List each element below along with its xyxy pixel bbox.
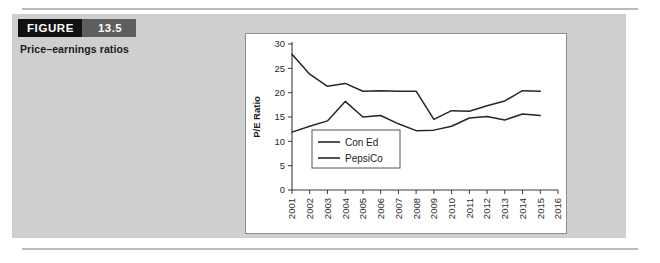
- bottom-divider-rule: [22, 248, 638, 250]
- x-tick-label: 2015: [535, 198, 546, 219]
- y-tick-label: 10: [274, 136, 285, 147]
- x-tick-label: 2001: [286, 198, 297, 219]
- figure-page: FIGURE 13.5 Price–earnings ratios 051015…: [0, 0, 660, 263]
- y-tick-label: 0: [280, 184, 285, 195]
- y-tick-label: 25: [274, 63, 285, 74]
- x-tick-label: 2004: [340, 198, 351, 219]
- y-tick-label: 20: [274, 87, 285, 98]
- figure-badge: FIGURE 13.5: [18, 19, 136, 37]
- x-tick-label: 2002: [304, 198, 315, 219]
- x-tick-label: 2008: [411, 198, 422, 219]
- x-tick-label: 2012: [481, 198, 492, 219]
- x-tick-label: 2005: [357, 198, 368, 219]
- y-axis-title: P/E Ratio: [251, 96, 262, 138]
- pe-ratio-line-chart: 051015202530P/E Ratio2001200220032004200…: [246, 34, 566, 233]
- figure-panel: FIGURE 13.5 Price–earnings ratios 051015…: [12, 14, 626, 238]
- x-tick-label: 2007: [393, 198, 404, 219]
- x-tick-label: 2013: [499, 198, 510, 219]
- x-tick-label: 2006: [375, 198, 386, 219]
- chart-card: 051015202530P/E Ratio2001200220032004200…: [245, 33, 567, 234]
- legend-label-pepsico: PepsiCo: [345, 153, 383, 164]
- figure-caption: Price–earnings ratios: [20, 43, 129, 55]
- top-divider-rule: [22, 8, 638, 10]
- x-tick-label: 2011: [464, 198, 475, 218]
- x-tick-label: 2010: [446, 198, 457, 219]
- figure-badge-word: FIGURE: [18, 19, 82, 37]
- y-tick-label: 5: [280, 160, 285, 171]
- x-tick-label: 2014: [517, 198, 528, 219]
- series-line-con-ed: [292, 101, 540, 132]
- y-tick-label: 30: [274, 38, 285, 49]
- x-tick-label: 2016: [552, 198, 563, 219]
- figure-badge-number: 13.5: [82, 19, 136, 37]
- x-tick-label: 2009: [428, 198, 439, 219]
- y-tick-label: 15: [274, 111, 285, 122]
- x-tick-label: 2003: [322, 198, 333, 219]
- series-line-pepsico: [292, 54, 540, 119]
- legend-label-con-ed: Con Ed: [345, 137, 378, 148]
